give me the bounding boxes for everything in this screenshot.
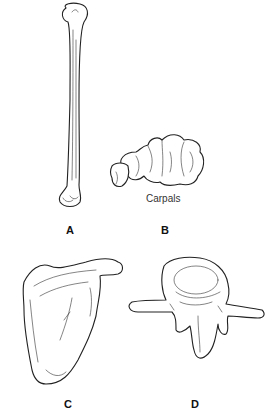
- bone-types-figure: Carpals A B C D: [0, 0, 267, 419]
- panel-label-a: A: [66, 224, 74, 236]
- humerus-drawing: [59, 3, 87, 206]
- panel-label-d: D: [191, 398, 199, 410]
- carpals-caption: Carpals: [146, 193, 180, 204]
- bone-illustrations: [0, 0, 267, 419]
- scapula-drawing: [23, 259, 122, 384]
- panel-label-b: B: [161, 224, 169, 236]
- carpals-drawing: [111, 135, 204, 187]
- panel-label-c: C: [64, 398, 72, 410]
- vertebra-drawing: [129, 257, 264, 358]
